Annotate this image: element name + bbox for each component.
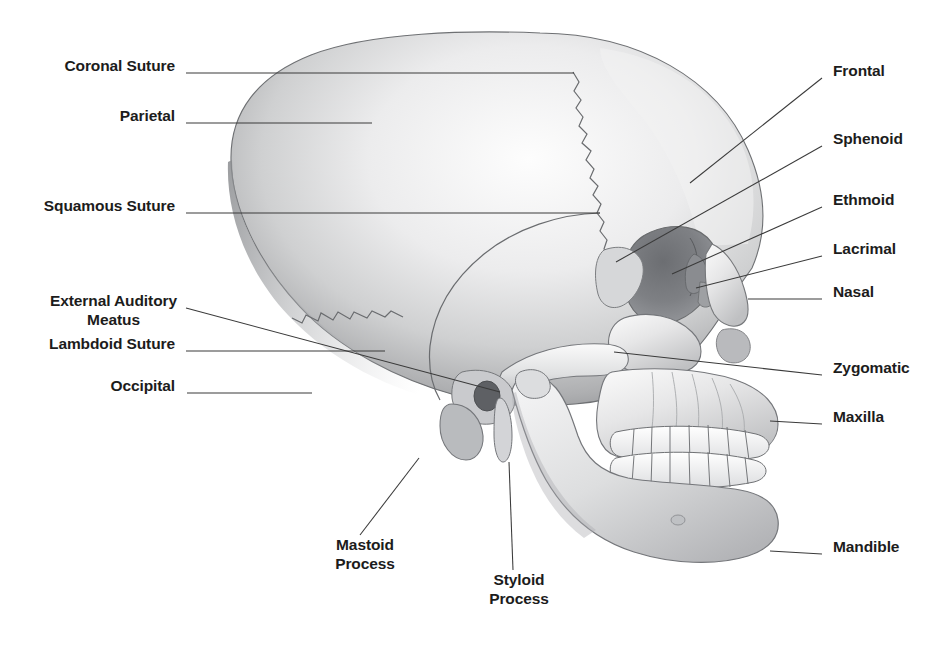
skull-diagram-figure: Coronal Suture Parietal Squamous Suture … [0,0,952,645]
label-maxilla-text: Maxilla [833,408,884,425]
label-external-auditory-meatus-line1: External Auditory [50,292,177,309]
label-coronal-suture-text: Coronal Suture [64,57,175,74]
label-external-auditory-meatus-line2: Meatus [41,310,186,329]
leader-mandible [770,551,822,554]
skull-body [186,32,822,570]
label-external-auditory-meatus: External Auditory Meatus [41,291,186,329]
label-mastoid-process-line1: Mastoid [336,536,394,553]
label-lacrimal: Lacrimal [833,239,896,258]
label-mastoid-process: Mastoid Process [300,535,430,573]
label-occipital: Occipital [110,376,175,395]
label-lambdoid-suture-text: Lambdoid Suture [49,335,175,352]
label-mastoid-process-line2: Process [300,554,430,573]
label-squamous-suture: Squamous Suture [44,196,175,215]
nasal-aperture [716,329,750,363]
label-ethmoid: Ethmoid [833,190,894,209]
label-styloid-process-line2: Process [454,589,584,608]
label-occipital-text: Occipital [110,377,175,394]
label-nasal: Nasal [833,282,874,301]
leader-mastoid-process [360,458,419,535]
label-lambdoid-suture: Lambdoid Suture [49,334,175,353]
label-zygomatic-text: Zygomatic [833,359,910,376]
label-frontal: Frontal [833,61,885,80]
label-styloid-process-line1: Styloid [494,571,545,588]
label-sphenoid: Sphenoid [833,129,903,148]
label-zygomatic: Zygomatic [833,358,910,377]
label-maxilla: Maxilla [833,407,884,426]
label-lacrimal-text: Lacrimal [833,240,896,257]
leader-styloid-process [509,462,513,570]
label-parietal: Parietal [120,106,175,125]
label-squamous-suture-text: Squamous Suture [44,197,175,214]
label-frontal-text: Frontal [833,62,885,79]
label-styloid-process: Styloid Process [454,570,584,608]
label-coronal-suture: Coronal Suture [64,56,175,75]
label-nasal-text: Nasal [833,283,874,300]
label-mandible: Mandible [833,537,899,556]
label-sphenoid-text: Sphenoid [833,130,903,147]
mental-foramen [671,515,685,525]
label-mandible-text: Mandible [833,538,899,555]
label-ethmoid-text: Ethmoid [833,191,894,208]
label-parietal-text: Parietal [120,107,175,124]
